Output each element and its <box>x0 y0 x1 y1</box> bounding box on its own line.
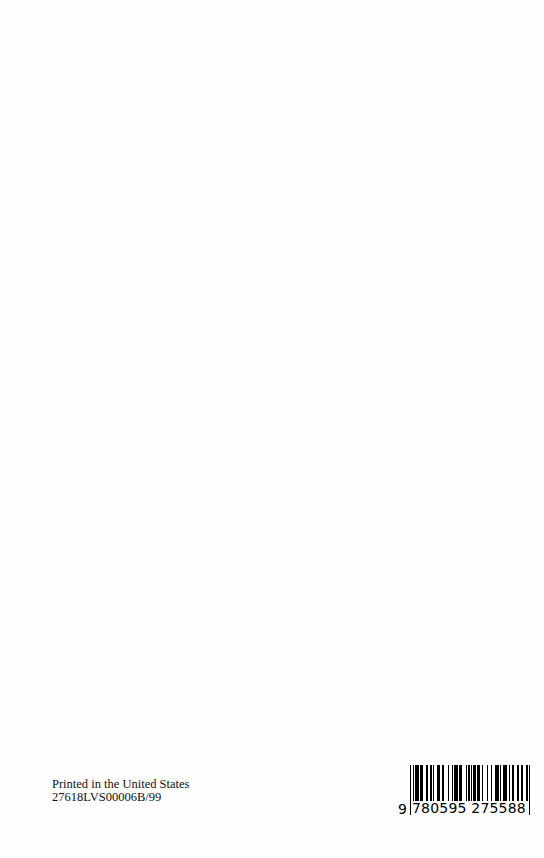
barcode-bar <box>426 765 427 801</box>
barcode-bar <box>482 765 483 801</box>
barcode-bar <box>512 765 513 801</box>
barcode-bar <box>430 765 431 801</box>
barcode-bar <box>452 765 453 801</box>
barcode-bar <box>500 765 501 801</box>
barcode-bar <box>443 765 444 801</box>
barcode-bar <box>497 765 498 801</box>
barcode-bar <box>529 765 530 815</box>
barcode-bar <box>517 765 518 801</box>
barcode-bar <box>487 765 488 801</box>
printer-imprint: Printed in the United States 27618LVS000… <box>52 778 189 804</box>
barcode-bar <box>421 765 422 801</box>
barcode-bar <box>461 765 462 801</box>
barcode-bar <box>433 765 434 801</box>
book-back-page: Printed in the United States 27618LVS000… <box>0 0 544 858</box>
barcode-bar <box>506 765 507 801</box>
barcode-bar <box>466 765 467 801</box>
barcode-bar <box>478 765 479 801</box>
barcode-bar <box>509 765 510 801</box>
barcode-digits: 780595 275588 <box>412 801 528 815</box>
barcode-lead-digit: 9 <box>398 801 407 817</box>
print-code-text: 27618LVS00006B/99 <box>52 791 189 804</box>
barcode-bar <box>418 765 419 801</box>
barcode-bar <box>474 765 475 801</box>
barcode-bar <box>448 765 449 801</box>
barcode-bar <box>491 765 492 801</box>
barcode-bar <box>439 765 440 801</box>
barcode-bar <box>521 765 522 801</box>
barcode-bar <box>457 765 458 801</box>
